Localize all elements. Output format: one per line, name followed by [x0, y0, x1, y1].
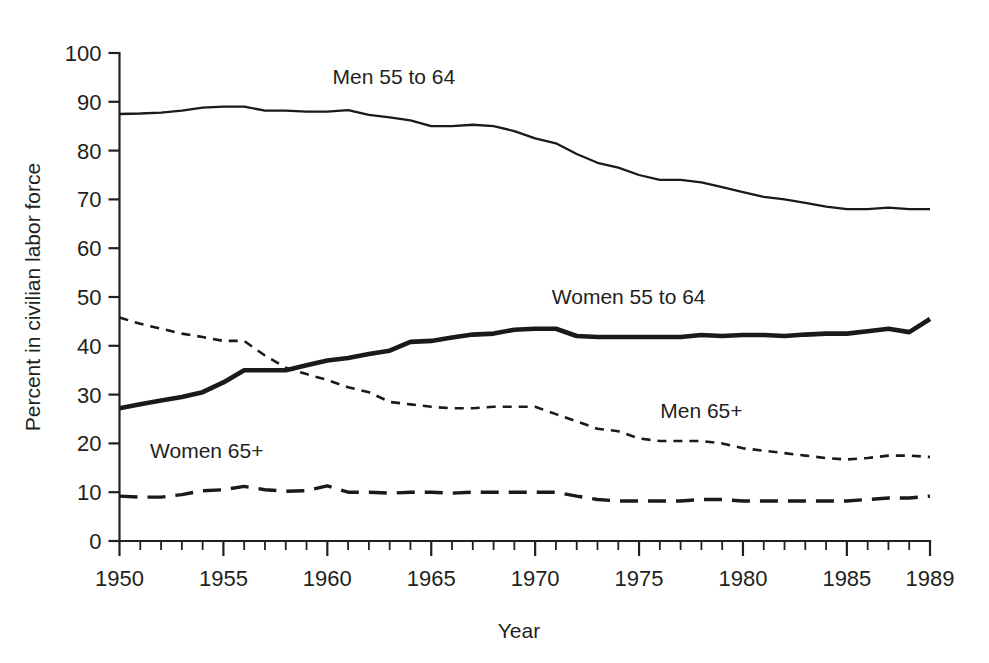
x-tick-label: 1960 [303, 566, 352, 591]
x-tick-label: 1950 [95, 566, 144, 591]
y-tick-label: 0 [89, 529, 101, 554]
y-tick-label: 100 [65, 41, 102, 66]
y-tick-label: 20 [77, 431, 101, 456]
series-label-men-55-to-64: Men 55 to 64 [333, 65, 456, 88]
x-tick-label: 1985 [822, 566, 871, 591]
axis-lines [120, 53, 931, 541]
y-tick-label: 30 [77, 383, 101, 408]
series-annotation-labels: Men 55 to 64Women 55 to 64Men 65+Women 6… [150, 65, 742, 462]
y-axis-title: Percent in civilian labor force [21, 163, 44, 431]
y-tick-label: 70 [77, 187, 101, 212]
series-line-women-55-to-64 [120, 319, 931, 408]
x-tick-label: 1989 [906, 566, 955, 591]
y-axis-tick-labels: 0102030405060708090100 [65, 41, 102, 554]
y-tick-label: 40 [77, 334, 101, 359]
series-label-women-65: Women 65+ [150, 439, 263, 462]
x-tick-label: 1955 [199, 566, 248, 591]
y-tick-label: 10 [77, 480, 101, 505]
x-tick-label: 1975 [615, 566, 664, 591]
series-label-men-65: Men 65+ [660, 399, 742, 422]
line-chart: 0102030405060708090100 19501955196019651… [0, 0, 989, 663]
y-axis-ticks [109, 53, 120, 541]
x-tick-label: 1965 [407, 566, 456, 591]
x-tick-label: 1980 [718, 566, 767, 591]
y-tick-label: 90 [77, 90, 101, 115]
chart-container: 0102030405060708090100 19501955196019651… [0, 0, 989, 663]
y-tick-label: 80 [77, 139, 101, 164]
y-tick-label: 50 [77, 285, 101, 310]
series-line-women-65 [120, 486, 931, 501]
y-tick-label: 60 [77, 236, 101, 261]
series-line-men-55-to-64 [120, 107, 931, 209]
x-axis-ticks [120, 541, 931, 556]
series-label-women-55-to-64: Women 55 to 64 [552, 285, 706, 308]
x-axis-tick-labels: 195019551960196519701975198019851989 [95, 566, 954, 591]
x-tick-label: 1970 [511, 566, 560, 591]
x-axis-title: Year [498, 619, 540, 642]
